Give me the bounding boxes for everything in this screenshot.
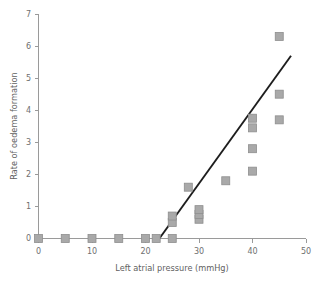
y-tick-label: 6 — [26, 42, 31, 51]
chart-figure: 7 6 5 4 3 2 1 0 Rate of oedema formation — [0, 0, 323, 283]
y-tick-label: 0 — [26, 234, 31, 243]
data-point — [275, 90, 283, 98]
y-axis-tick-labels: 7 6 5 4 3 2 1 0 — [26, 10, 31, 243]
x-axis: 0 10 20 30 40 50 Left atrial pressure (m… — [36, 239, 311, 274]
x-axis-title: Left atrial pressure (mmHg) — [115, 263, 228, 273]
data-point — [35, 235, 43, 243]
data-point — [115, 235, 123, 243]
x-axis-tick-labels: 0 10 20 30 40 50 — [36, 247, 311, 256]
data-point — [249, 114, 257, 122]
x-tick-label: 0 — [36, 247, 41, 256]
x-tick-label: 20 — [140, 247, 150, 256]
data-point — [142, 235, 150, 243]
data-point — [249, 124, 257, 132]
y-tick-label: 3 — [26, 138, 31, 147]
data-point — [275, 116, 283, 124]
y-axis-ticks — [35, 14, 39, 238]
y-tick-label: 2 — [26, 170, 31, 179]
regression-line — [159, 56, 291, 239]
regression-line-segment — [159, 56, 291, 239]
data-point — [168, 212, 176, 220]
data-point — [152, 235, 160, 243]
data-point — [249, 167, 257, 175]
scatter-plot: 7 6 5 4 3 2 1 0 Rate of oedema formation — [0, 0, 323, 283]
y-axis: 7 6 5 4 3 2 1 0 Rate of oedema formation — [9, 10, 39, 243]
data-point — [222, 177, 230, 185]
x-tick-label: 40 — [247, 247, 257, 256]
data-point — [61, 235, 69, 243]
x-tick-label: 50 — [301, 247, 311, 256]
data-point — [249, 145, 257, 153]
y-tick-label: 1 — [26, 202, 31, 211]
y-axis-title: Rate of oedema formation — [9, 72, 19, 180]
data-point — [195, 206, 203, 214]
data-point — [168, 235, 176, 243]
y-tick-label: 5 — [26, 74, 31, 83]
x-tick-label: 30 — [194, 247, 204, 256]
data-point — [88, 235, 96, 243]
x-tick-label: 10 — [87, 247, 97, 256]
data-point — [184, 183, 192, 191]
y-tick-label: 7 — [26, 10, 31, 19]
data-point-markers — [35, 32, 284, 242]
data-point — [275, 32, 283, 40]
y-tick-label: 4 — [26, 106, 31, 115]
